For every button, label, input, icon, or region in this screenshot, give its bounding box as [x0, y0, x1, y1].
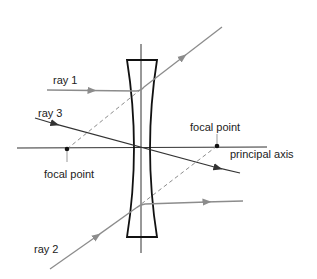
ray-2	[50, 201, 243, 269]
focal-point-left-label: focal point	[44, 168, 94, 180]
focal-point-left-dot	[65, 147, 70, 152]
ray-3-label: ray 3	[38, 107, 62, 119]
ray1-virtual-extension	[67, 90, 140, 149]
focal-point-right-dot	[215, 144, 220, 149]
ray-2-label: ray 2	[34, 243, 58, 255]
focal-point-right-label: focal point	[190, 121, 240, 133]
ray-1-label: ray 1	[53, 74, 77, 86]
lens-ray-diagram: ray 1 ray 3 ray 2 focal point focal poin…	[0, 0, 317, 279]
principal-axis-label: principal axis	[230, 148, 294, 160]
